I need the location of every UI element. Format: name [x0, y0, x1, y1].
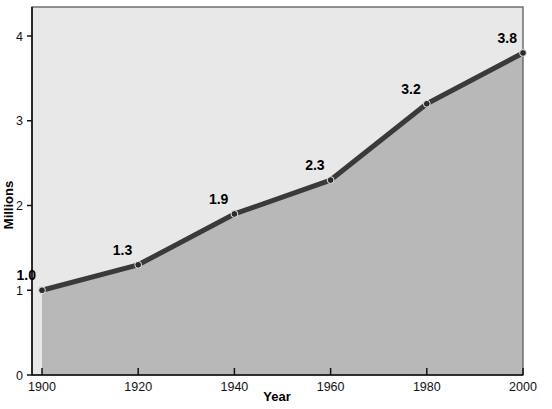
x-tick-label: 1960 — [317, 380, 345, 394]
data-value-label: 1.0 — [17, 267, 37, 283]
x-tick-label: 2000 — [509, 380, 537, 394]
x-axis-title: Year — [263, 389, 290, 404]
x-tick-label: 1940 — [220, 380, 248, 394]
data-value-label: 3.8 — [498, 30, 518, 46]
y-tick-label: 2 — [16, 199, 23, 213]
y-tick-label: 0 — [16, 369, 23, 383]
line-chart: 01234 190019201940196019802000 1.01.31.9… — [0, 0, 552, 409]
data-value-label: 1.9 — [209, 191, 229, 207]
data-value-label: 2.3 — [305, 157, 325, 173]
data-point-marker — [423, 100, 430, 107]
data-point-marker — [39, 287, 46, 294]
y-tick-label: 4 — [16, 30, 23, 44]
data-point-marker — [135, 261, 142, 268]
y-tick-label: 3 — [16, 114, 23, 128]
x-tick-label: 1980 — [413, 380, 441, 394]
chart-svg: 01234 190019201940196019802000 1.01.31.9… — [0, 0, 552, 409]
data-value-label: 1.3 — [113, 242, 133, 258]
data-point-marker — [231, 211, 238, 218]
x-tick-label: 1900 — [28, 380, 56, 394]
data-value-label: 3.2 — [401, 81, 421, 97]
y-axis-title: Millions — [1, 181, 16, 229]
x-tick-label: 1920 — [124, 380, 152, 394]
data-point-marker — [520, 50, 527, 57]
y-tick-label: 1 — [16, 284, 23, 298]
data-point-marker — [327, 177, 334, 184]
